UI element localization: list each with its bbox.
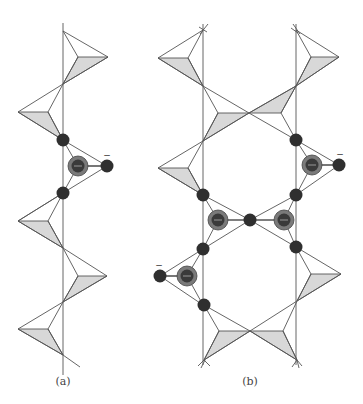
oxygen-atom	[244, 214, 257, 227]
charged-ring-atom	[274, 210, 294, 230]
oxygen-atom	[290, 241, 303, 254]
silicate-chain-figure: − − − (a) (b)	[0, 0, 363, 404]
oxygen-atom	[101, 160, 114, 173]
oxygen-atoms	[57, 134, 346, 312]
oxygen-atom	[333, 159, 346, 172]
oxygen-atom	[290, 189, 303, 202]
negative-charge-label: −	[103, 150, 111, 160]
oxygen-atom	[57, 187, 70, 200]
charged-ring-atom	[177, 266, 197, 286]
charged-ring-atom	[208, 210, 228, 230]
charged-ring-atom	[68, 156, 88, 176]
negative-charge-label: −	[155, 260, 163, 270]
oxygen-atom	[290, 134, 303, 147]
charged-ring-atom	[302, 155, 322, 175]
oxygen-atom	[197, 189, 210, 202]
figure-canvas	[0, 0, 363, 404]
oxygen-atom	[154, 270, 167, 283]
panel-b-ring	[158, 24, 341, 368]
oxygen-atom	[57, 134, 70, 147]
oxygen-atom	[198, 299, 211, 312]
panel-label-b: (b)	[242, 375, 258, 388]
oxygen-atom	[197, 243, 210, 256]
negative-charge-label: −	[336, 149, 344, 159]
hydroxyl-rings	[68, 155, 322, 286]
panel-label-a: (a)	[55, 375, 70, 388]
